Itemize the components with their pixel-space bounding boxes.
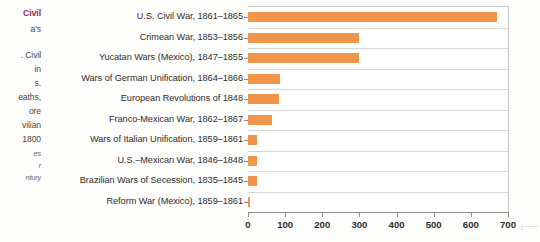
bar [248,176,257,186]
category-tick [244,79,248,80]
row-gridline [248,171,508,172]
bar [248,94,279,104]
row-gridline [248,89,508,90]
x-axis-tick [248,212,249,217]
x-axis-tick-label: 400 [389,219,405,230]
x-axis-tick-label: 200 [314,219,330,230]
bar [248,156,257,166]
plot-area [248,6,509,213]
bar [248,135,257,145]
x-axis-tick-label: 300 [351,219,367,230]
row-gridline [248,110,508,111]
row-gridline [248,151,508,152]
x-axis-tick [508,212,509,217]
category-label: Yucatan Wars (Mexico), 1847–1855 [28,52,243,62]
category-tick [244,140,248,141]
bar-chart: U.S. Civil War, 1861–1865Crimean War, 18… [0,0,540,242]
x-axis-tick-label: 700 [500,219,516,230]
bar [248,115,272,125]
x-axis-tick [471,212,472,217]
category-label: U.S.–Mexican War, 1846–1848 [28,155,243,165]
category-label: Wars of German Unification, 1864–1866 [28,73,243,83]
bar [248,12,497,22]
x-axis-tick [359,212,360,217]
category-tick [244,38,248,39]
category-tick [244,58,248,59]
bar [248,74,280,84]
bar [248,33,359,43]
x-axis-line [248,212,509,213]
x-axis-tick [285,212,286,217]
category-label: Crimean War, 1853–1856 [28,32,243,42]
bar [248,197,250,207]
category-label: Franco-Mexican War, 1862–1867 [28,114,243,124]
category-tick [244,120,248,121]
category-tick [244,181,248,182]
row-gridline [248,69,508,70]
category-tick [244,99,248,100]
x-axis-tick-label: 600 [463,219,479,230]
category-label: Brazilian Wars of Secession, 1835–1845 [28,175,243,185]
figure-page: Civila’s. Civilins.eaths,orevilian1800es… [0,0,540,242]
category-tick [244,17,248,18]
category-label: Wars of Italian Unification, 1859–1861 [28,134,243,144]
category-label: European Revolutions of 1848 [28,93,243,103]
category-tick [244,161,248,162]
x-axis-tick [322,212,323,217]
page-corner-mark: ┌── [519,222,539,231]
x-axis-tick-label: 0 [245,219,250,230]
x-axis-tick [397,212,398,217]
category-tick [244,202,248,203]
row-gridline [248,192,508,193]
x-axis-tick [434,212,435,217]
category-label: Reform War (Mexico), 1859–1861 [28,196,243,206]
x-axis-tick-label: 100 [277,219,293,230]
row-gridline [248,130,508,131]
category-axis-labels: U.S. Civil War, 1861–1865Crimean War, 18… [28,6,243,211]
row-gridline [248,28,508,29]
category-label: U.S. Civil War, 1861–1865 [28,11,243,21]
x-axis-tick-label: 500 [426,219,442,230]
bar [248,53,359,63]
row-gridline [248,48,508,49]
